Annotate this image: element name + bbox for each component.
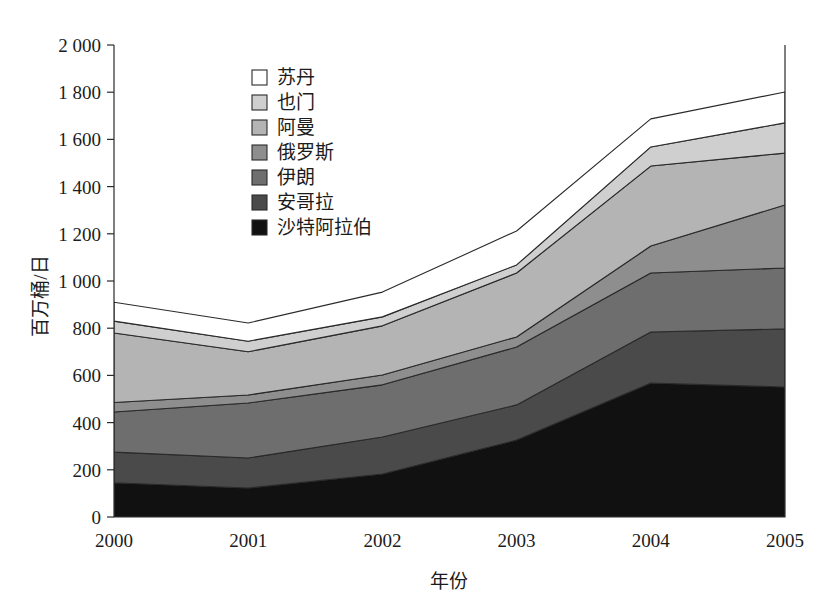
y-tick-label: 0 — [92, 507, 102, 528]
x-tick-label: 2004 — [632, 530, 671, 551]
legend-swatch-伊朗 — [252, 170, 267, 185]
legend-label-沙特阿拉伯: 沙特阿拉伯 — [277, 217, 372, 238]
stacked-area-chart: 02004006008001 0001 2001 4001 6001 8002 … — [0, 0, 837, 609]
legend-swatch-安哥拉 — [252, 195, 267, 210]
x-tick-label: 2002 — [363, 530, 401, 551]
legend-label-安哥拉: 安哥拉 — [277, 192, 334, 213]
y-tick-label: 400 — [73, 413, 102, 434]
y-tick-label: 1 400 — [58, 177, 101, 198]
chart-canvas: 02004006008001 0001 2001 4001 6001 8002 … — [0, 0, 837, 609]
legend-label-俄罗斯: 俄罗斯 — [277, 142, 334, 163]
y-tick-label: 1 600 — [58, 129, 101, 150]
legend-swatch-苏丹 — [252, 70, 267, 85]
legend-label-伊朗: 伊朗 — [277, 167, 315, 188]
legend-label-苏丹: 苏丹 — [277, 67, 315, 88]
y-tick-label: 600 — [73, 365, 102, 386]
legend-label-阿曼: 阿曼 — [277, 117, 315, 138]
y-tick-label: 2 000 — [58, 35, 101, 56]
legend-swatch-阿曼 — [252, 120, 267, 135]
legend-swatch-俄罗斯 — [252, 145, 267, 160]
y-tick-label: 200 — [73, 460, 102, 481]
y-tick-label: 1 000 — [58, 271, 101, 292]
y-tick-label: 1 800 — [58, 82, 101, 103]
y-tick-label: 800 — [73, 318, 102, 339]
legend-swatch-沙特阿拉伯 — [252, 220, 267, 235]
x-tick-label: 2000 — [95, 530, 133, 551]
x-tick-label: 2005 — [766, 530, 804, 551]
legend-swatch-也门 — [252, 95, 267, 110]
x-axis-title: 年份 — [430, 571, 468, 592]
x-tick-label: 2003 — [498, 530, 536, 551]
x-tick-label: 2001 — [229, 530, 267, 551]
y-tick-label: 1 200 — [58, 224, 101, 245]
legend-label-也门: 也门 — [277, 92, 315, 113]
y-axis-title: 百万桶/日 — [30, 255, 51, 336]
